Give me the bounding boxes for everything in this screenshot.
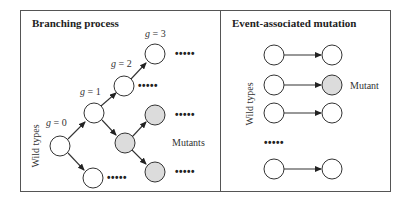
generation-label-1: g = 1: [80, 86, 101, 97]
mutant-node-lower: [145, 162, 165, 182]
panel-title-event: Event-associated mutation: [232, 17, 356, 29]
wild-type-node-row-2: [264, 75, 284, 95]
edge-g1-to-mutant: [102, 120, 116, 135]
wild-types-label: Wild types: [30, 124, 41, 167]
ellipsis-g3: •••••: [175, 48, 195, 59]
diagram-canvas: Branching process Wild types g = 0 g = 1…: [0, 0, 407, 203]
ellipsis-mutant-upper: •••••: [175, 109, 195, 120]
edge-mutant-to-lower: [132, 150, 146, 164]
generation-label-3: g = 3: [145, 28, 166, 39]
edge-root-to-g1: [68, 122, 85, 139]
wild-type-node-row-3: [264, 103, 284, 123]
generation-label-2: g = 2: [111, 58, 132, 69]
mutant-label: Mutant: [350, 80, 379, 91]
wild-type-node-g3: [145, 44, 165, 64]
edge-g2-to-g3: [131, 63, 146, 79]
ellipsis-mutant-lower: •••••: [175, 166, 195, 177]
generation-label-0: g = 0: [46, 117, 67, 128]
branching-process-panel: Branching process Wild types g = 0 g = 1…: [30, 17, 205, 188]
panel-title-branching: Branching process: [32, 17, 120, 29]
mutant-node-upper: [145, 105, 165, 125]
ellipsis-g2: •••••: [138, 80, 158, 91]
wild-type-node-g2: [114, 76, 134, 96]
wild-type-node-root: [50, 136, 70, 156]
mutant-node: [115, 133, 135, 153]
offspring-node-row-3: [322, 103, 342, 123]
edge-root-to-bottom: [68, 153, 84, 170]
offspring-node-row-4: [322, 159, 342, 179]
mutant-node-row-2: [322, 75, 342, 95]
edge-g1-to-g2: [101, 93, 116, 106]
ellipsis-rows: •••••: [264, 137, 284, 148]
mutants-label: Mutants: [172, 137, 205, 148]
event-mutation-panel: Event-associated mutation Wild types Mut…: [232, 17, 379, 179]
edge-mutant-to-upper: [132, 122, 146, 137]
wild-type-node-bottom: [83, 168, 103, 188]
wild-type-node-row-4: [264, 159, 284, 179]
wild-type-node-g1: [84, 103, 104, 123]
ellipsis-bottom: •••••: [107, 172, 127, 183]
wild-type-node-row-1: [264, 45, 284, 65]
offspring-node-row-1: [322, 45, 342, 65]
wild-types-label-right: Wild types: [244, 82, 255, 125]
